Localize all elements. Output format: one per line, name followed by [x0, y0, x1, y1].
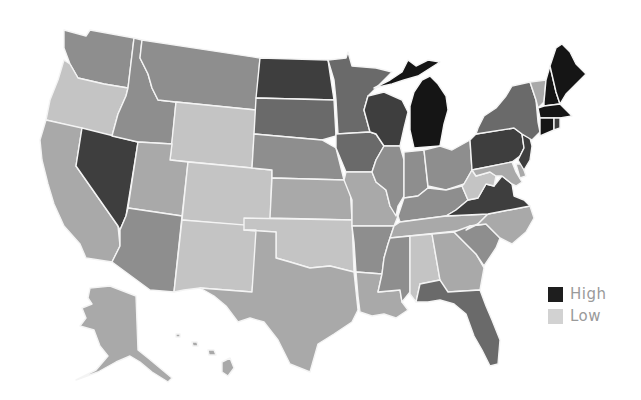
state-ND[interactable] [256, 58, 334, 100]
legend: High Low [548, 283, 606, 327]
state-HI[interactable] [176, 334, 234, 376]
state-SD[interactable] [254, 98, 336, 140]
legend-label-low: Low [570, 307, 601, 325]
state-RI[interactable] [554, 118, 560, 130]
legend-item-high: High [548, 283, 606, 305]
state-KS[interactable] [270, 178, 352, 220]
legend-swatch-high [548, 287, 563, 302]
us-choropleth-map [0, 0, 641, 400]
legend-item-low: Low [548, 305, 606, 327]
state-FL[interactable] [416, 280, 500, 366]
state-MA[interactable] [538, 104, 572, 118]
legend-label-high: High [570, 285, 606, 303]
state-AK[interactable] [76, 286, 172, 382]
state-MI[interactable] [410, 76, 448, 148]
state-NM[interactable] [174, 220, 258, 292]
state-WY[interactable] [170, 102, 256, 168]
legend-swatch-low [548, 309, 563, 324]
state-CT[interactable] [540, 118, 554, 136]
state-MT[interactable] [140, 40, 260, 110]
